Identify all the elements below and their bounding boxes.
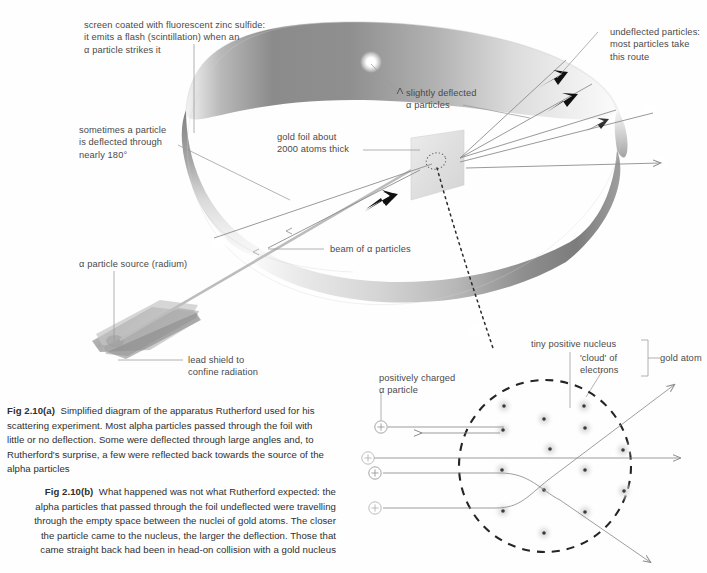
label-electron-cloud: 'cloud' of electrons <box>580 352 619 377</box>
gold-nucleus <box>502 404 506 408</box>
scintillation-flash <box>647 108 656 117</box>
gold-nucleus <box>583 468 587 472</box>
label-lead-shield: lead shield to confine radiation <box>188 354 258 379</box>
label-screen: screen coated with fluorescent zinc sulf… <box>84 19 265 56</box>
radium-source-spot <box>106 335 124 347</box>
label-slightly-deflected: slightly deflected α particles <box>406 87 477 112</box>
scintillation-flash <box>215 239 223 247</box>
gold-nucleus <box>621 448 625 452</box>
gold-nucleus <box>583 510 587 514</box>
label-beam: beam of α particles <box>330 243 411 255</box>
label-backscatter: sometimes a particle is deflected throug… <box>79 124 166 161</box>
caption-b: Fig 2.10(b) What happened was not what R… <box>24 485 336 558</box>
alpha-tracks <box>370 385 680 562</box>
caption-a: Fig 2.10(a) Simplified diagram of the ap… <box>7 404 327 477</box>
track-deflected-up <box>383 473 650 562</box>
scintillation-flash <box>659 159 666 166</box>
gold-nucleus <box>583 426 587 430</box>
gold-nucleus <box>542 531 546 535</box>
scintillation-flash <box>470 327 478 335</box>
caption-a-id: Fig 2.10(a) <box>7 405 55 416</box>
gold-nucleus <box>622 489 626 493</box>
caption-b-id: Fig 2.10(b) <box>45 486 94 497</box>
label-undeflected: undeflected particles: most particles ta… <box>610 26 700 63</box>
label-tiny-nucleus: tiny positive nucleus <box>531 338 616 350</box>
gold-nucleus <box>500 468 504 472</box>
label-gold-atom: gold atom <box>660 352 702 364</box>
gold-nucleus <box>542 417 546 421</box>
nucleus-group <box>492 396 634 543</box>
lead-shield-and-source <box>92 300 201 359</box>
gold-nucleus <box>582 404 586 408</box>
gold-atom-diagram <box>362 380 680 562</box>
bracket-gold-atom <box>641 340 648 376</box>
alpha-particle-group <box>362 421 387 514</box>
gold-nucleus <box>548 447 552 451</box>
label-gold-foil: gold foil about 2000 atoms thick <box>277 131 349 156</box>
label-alpha-source: α particle source (radium) <box>79 258 187 270</box>
figure-page: screen coated with fluorescent zinc sulf… <box>0 0 707 573</box>
label-alpha-particle: positively charged α particle <box>379 372 455 397</box>
gold-nucleus <box>501 509 505 513</box>
scintillation-flash <box>367 58 375 66</box>
gold-nucleus <box>501 428 505 432</box>
